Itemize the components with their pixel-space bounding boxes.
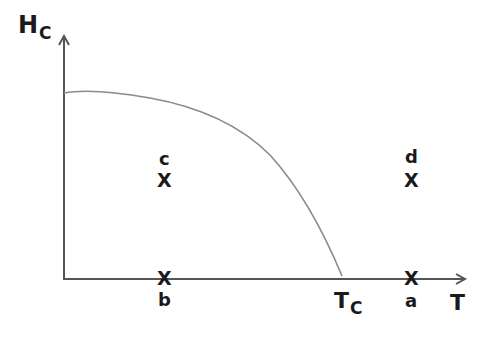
point-a-marker: X [404,269,419,288]
point-c-label: c [159,150,170,168]
tc-label: TC [334,290,363,312]
point-c-marker: X [157,171,172,190]
point-d-label: d [405,148,418,166]
y-axis-label: HC [18,13,52,37]
point-a-label: a [405,292,417,310]
critical-field-curve [64,91,342,276]
x-axis-label: T [450,292,465,314]
phase-diagram-canvas [0,0,495,339]
point-b-marker: X [157,269,172,288]
point-d-marker: X [404,171,419,190]
point-b-label: b [158,291,171,309]
